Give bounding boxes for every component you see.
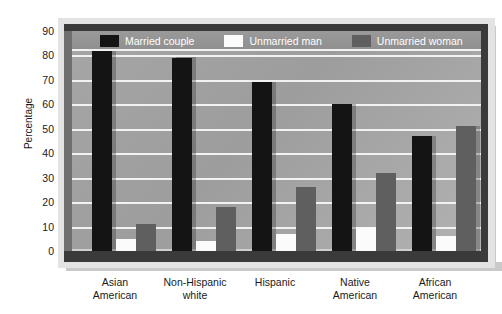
y-tick-90: 90 [28, 25, 54, 37]
bar-group-african-american [398, 31, 472, 251]
x-label-line-1: Hispanic [238, 276, 312, 289]
x-label-line-2: American [318, 289, 392, 302]
legend-underline [72, 49, 481, 51]
bar-unmarried-man [116, 239, 136, 251]
legend-label-unmarried-man: Unmarried man [249, 35, 321, 47]
legend: Married couple Unmarried man Unmarried w… [72, 31, 481, 51]
y-tick-20: 20 [28, 196, 54, 208]
plot-left-strip [64, 31, 72, 251]
bar-unmarried-man [196, 241, 216, 251]
x-label-line-2: white [158, 289, 232, 302]
legend-label-unmarried-woman: Unmarried woman [377, 35, 463, 47]
legend-item-married-couple[interactable]: Married couple [100, 35, 194, 47]
bar-group-hispanic [238, 31, 312, 251]
bar-married-couple [412, 136, 432, 251]
bar-unmarried-woman [296, 187, 316, 251]
bar-married-couple [92, 46, 112, 251]
bar-chart: Percentage 90 80 70 60 50 40 30 20 10 0 [0, 0, 502, 314]
bar-unmarried-man [276, 234, 296, 251]
bar-unmarried-woman [216, 207, 236, 251]
bar-unmarried-woman [376, 173, 396, 251]
bar-group-asian-american [78, 31, 152, 251]
x-label-asian-american: Asian American [78, 276, 152, 301]
x-label-african-american: African American [398, 276, 472, 301]
x-label-line-2: American [78, 289, 152, 302]
x-label-native-american: Native American [318, 276, 392, 301]
y-tick-40: 40 [28, 147, 54, 159]
bar-married-couple [252, 82, 272, 251]
bar-unmarried-woman [456, 126, 476, 251]
legend-swatch-married-couple-icon [100, 35, 119, 47]
x-label-hispanic: Hispanic [238, 276, 312, 289]
y-axis: Percentage 90 80 70 60 50 40 30 20 10 0 [22, 0, 54, 314]
bar-unmarried-man [436, 236, 456, 251]
plot-area: Married couple Unmarried man Unmarried w… [72, 31, 481, 251]
x-label-non-hispanic-white: Non-Hispanic white [158, 276, 232, 301]
legend-item-unmarried-man[interactable]: Unmarried man [224, 35, 321, 47]
bar-married-couple [332, 104, 352, 251]
y-tick-10: 10 [28, 221, 54, 233]
y-tick-50: 50 [28, 123, 54, 135]
x-label-line-2: American [398, 289, 472, 302]
legend-swatch-unmarried-woman-icon [352, 35, 371, 47]
x-label-line-1: Asian [78, 276, 152, 289]
y-tick-30: 30 [28, 172, 54, 184]
y-tick-0: 0 [28, 245, 54, 257]
bar-unmarried-woman [136, 224, 156, 251]
legend-swatch-unmarried-man-icon [224, 35, 243, 47]
x-label-line-1: African [398, 276, 472, 289]
legend-item-unmarried-woman[interactable]: Unmarried woman [352, 35, 463, 47]
y-tick-80: 80 [28, 49, 54, 61]
y-tick-70: 70 [28, 74, 54, 86]
x-label-line-1: Native [318, 276, 392, 289]
y-tick-60: 60 [28, 98, 54, 110]
bar-group-native-american [318, 31, 392, 251]
bar-unmarried-man [356, 227, 376, 251]
bar-group-non-hispanic-white [158, 31, 232, 251]
x-label-line-1: Non-Hispanic [158, 276, 232, 289]
legend-label-married-couple: Married couple [125, 35, 194, 47]
bar-married-couple [172, 58, 192, 251]
